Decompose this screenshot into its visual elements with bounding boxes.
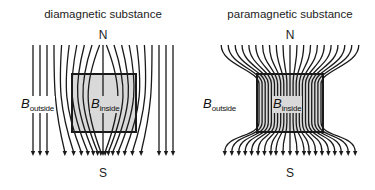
b-inside-label: Binside (90, 96, 120, 113)
north-pole-label: N (286, 28, 295, 42)
b-inside-label: Binside (272, 96, 302, 113)
b-outside-label: Boutside (20, 96, 55, 113)
diamagnetic-title: diamagnetic substance (44, 8, 162, 20)
south-pole-label: S (99, 166, 107, 180)
paramagnetic-title: paramagnetic substance (227, 8, 352, 20)
south-pole-label: S (286, 166, 294, 180)
diamagnetic-field-lines (0, 0, 190, 190)
b-outside-label: Boutside (202, 96, 237, 113)
paramagnetic-panel: paramagnetic substance N S Boutside Bins… (185, 0, 375, 190)
north-pole-label: N (99, 28, 108, 42)
paramagnetic-field-lines (185, 0, 375, 190)
diamagnetic-panel: diamagnetic substance N S Boutside Binsi… (0, 0, 190, 190)
